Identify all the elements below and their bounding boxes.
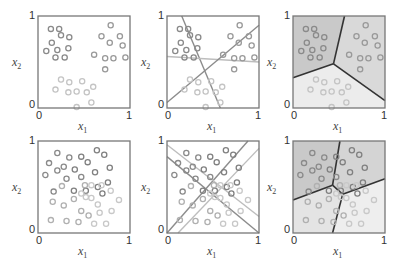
x-tick-0: 0 xyxy=(291,110,297,121)
data-point xyxy=(103,67,108,72)
x-axis-label: x1 xyxy=(207,245,216,262)
data-point xyxy=(71,196,76,201)
x-tick-0: 0 xyxy=(36,235,42,246)
y-tick-1: 1 xyxy=(29,10,35,21)
data-point xyxy=(99,34,104,39)
data-point xyxy=(85,160,90,165)
y-axis-label: x2 xyxy=(141,56,150,73)
scatter-plot-with-lines xyxy=(167,141,259,233)
data-point xyxy=(55,168,60,173)
y-tick-0: 0 xyxy=(284,99,290,110)
data-point xyxy=(97,210,102,215)
data-point xyxy=(89,195,94,200)
plot-frame xyxy=(38,16,130,108)
data-point xyxy=(46,160,51,165)
data-point xyxy=(61,203,66,208)
x-tick-0: 0 xyxy=(291,235,297,246)
x-axis-label: x1 xyxy=(78,245,87,262)
y-tick-0: 0 xyxy=(158,99,164,110)
data-point xyxy=(86,213,91,218)
data-point xyxy=(74,89,79,94)
panel-bottom-right xyxy=(293,141,385,233)
data-point xyxy=(103,221,108,226)
data-point xyxy=(91,84,96,89)
data-point xyxy=(92,170,97,175)
y-axis-label: x2 xyxy=(12,56,21,73)
decision-regions-plot xyxy=(293,141,385,233)
data-point xyxy=(103,56,108,61)
scatter-plot-with-lines xyxy=(167,16,259,108)
y-axis-label: x2 xyxy=(141,181,150,198)
data-point xyxy=(58,77,63,82)
x-axis-label: x1 xyxy=(333,120,342,137)
panel-top-right xyxy=(293,16,385,108)
data-point xyxy=(51,189,56,194)
data-point xyxy=(123,55,128,60)
data-point xyxy=(109,208,114,213)
x-axis-label: x1 xyxy=(333,245,342,262)
y-tick-1: 1 xyxy=(284,10,290,21)
scatter-plot xyxy=(38,141,130,233)
panel-top-left xyxy=(38,16,130,108)
data-point xyxy=(61,164,66,169)
y-tick-0: 0 xyxy=(29,224,35,235)
data-point xyxy=(67,35,72,40)
data-point xyxy=(117,34,122,39)
data-point xyxy=(44,48,49,53)
scatter-plot xyxy=(38,16,130,108)
data-point xyxy=(79,154,84,159)
data-point xyxy=(72,167,77,172)
x-tick-0: 0 xyxy=(36,110,42,121)
data-point xyxy=(58,33,63,38)
data-point xyxy=(71,188,76,193)
data-point xyxy=(79,174,84,179)
data-point xyxy=(64,176,69,181)
data-point xyxy=(53,55,58,60)
x-tick-1: 1 xyxy=(381,110,387,121)
data-point xyxy=(49,40,54,45)
data-point xyxy=(66,90,71,95)
data-point xyxy=(83,195,88,200)
y-tick-0: 0 xyxy=(284,224,290,235)
y-axis-label: x2 xyxy=(12,181,21,198)
data-point xyxy=(100,191,105,196)
x-axis-label: x1 xyxy=(207,120,216,137)
data-point xyxy=(59,183,64,188)
data-point xyxy=(66,46,71,51)
decision-regions-plot xyxy=(293,16,385,108)
data-point xyxy=(74,104,79,109)
x-tick-1: 1 xyxy=(255,235,261,246)
x-tick-0: 0 xyxy=(165,235,171,246)
x-tick-1: 1 xyxy=(381,235,387,246)
data-point xyxy=(53,87,58,92)
data-point xyxy=(89,183,94,188)
panel-top-middle xyxy=(167,16,259,108)
data-point xyxy=(48,218,53,223)
data-point xyxy=(94,148,99,153)
data-point xyxy=(67,80,72,85)
data-point xyxy=(107,40,112,45)
figure: 1001x1x21001x1x21001x1x21001x1x21001x1x2… xyxy=(0,0,404,263)
y-axis-label: x2 xyxy=(267,56,276,73)
panel-bottom-left xyxy=(38,141,130,233)
data-point xyxy=(76,219,81,224)
x-tick-1: 1 xyxy=(126,110,132,121)
y-tick-1: 1 xyxy=(158,10,164,21)
data-point xyxy=(108,188,113,193)
y-axis-label: x2 xyxy=(267,181,276,198)
data-point xyxy=(67,155,72,160)
data-point xyxy=(95,202,100,207)
y-tick-1: 1 xyxy=(158,135,164,146)
data-point xyxy=(102,152,107,157)
data-point xyxy=(111,56,116,61)
data-point xyxy=(48,26,53,31)
x-tick-1: 1 xyxy=(255,110,261,121)
y-tick-1: 1 xyxy=(284,135,290,146)
y-tick-0: 0 xyxy=(158,224,164,235)
x-axis-label: x1 xyxy=(78,120,87,137)
panel-bottom-middle xyxy=(167,141,259,233)
data-point xyxy=(80,79,85,84)
data-point xyxy=(107,165,112,170)
data-point xyxy=(57,26,62,31)
data-point xyxy=(43,172,48,177)
